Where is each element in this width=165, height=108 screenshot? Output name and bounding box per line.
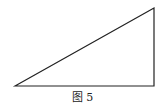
- right-triangle: [15, 8, 154, 86]
- figure-caption: 图 5: [0, 91, 165, 105]
